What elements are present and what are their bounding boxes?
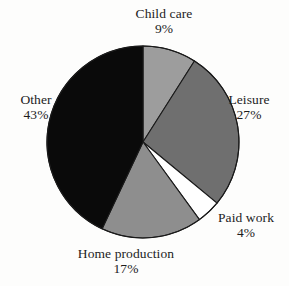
pie-label-paid-work: Paid work 4% — [204, 210, 288, 240]
pie-label-other: Other 43% — [4, 92, 68, 122]
pie-label-other-name: Other — [4, 92, 68, 107]
pie-label-other-value: 43% — [4, 107, 68, 122]
pie-label-home-production-value: 17% — [56, 261, 196, 276]
pie-label-leisure: Leisure 27% — [212, 92, 286, 122]
pie-label-child-care: Child care 9% — [104, 6, 224, 36]
pie-label-child-care-name: Child care — [104, 6, 224, 21]
pie-label-paid-work-name: Paid work — [204, 210, 288, 225]
pie-chart-figure: Child care 9% Leisure 27% Paid work 4% H… — [0, 0, 289, 286]
pie-label-leisure-value: 27% — [212, 107, 286, 122]
pie-label-paid-work-value: 4% — [204, 225, 288, 240]
pie-label-leisure-name: Leisure — [212, 92, 286, 107]
pie-label-home-production-name: Home production — [56, 246, 196, 261]
pie-label-child-care-value: 9% — [104, 21, 224, 36]
pie-label-home-production: Home production 17% — [56, 246, 196, 276]
pie-chart-canvas — [0, 0, 289, 286]
